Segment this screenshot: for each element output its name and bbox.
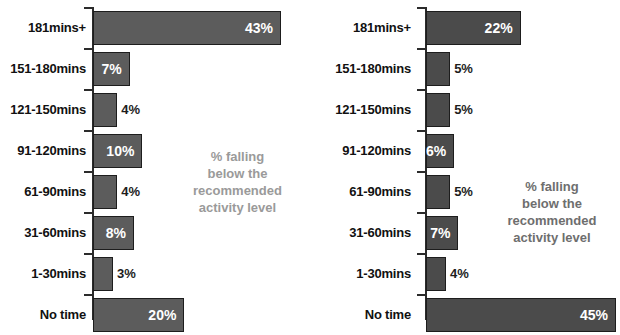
- category-label: 151-180mins: [310, 48, 411, 89]
- bar-row: 181mins+43%: [0, 7, 310, 48]
- bar-1-30mins[interactable]: [93, 257, 113, 291]
- bar-row: No time45%: [310, 294, 620, 335]
- category-label: 61-90mins: [310, 171, 411, 212]
- bar-row: 121-150mins4%: [0, 89, 310, 130]
- bar-value-label: 4%: [121, 93, 140, 127]
- bar-value-label: 6%: [426, 143, 453, 159]
- bar-value-label: 5%: [454, 175, 473, 209]
- bar-value-label: 5%: [454, 52, 473, 86]
- bar-value-label: 7%: [102, 61, 129, 77]
- bar-value-label: 22%: [485, 20, 520, 36]
- bar-91-120mins[interactable]: 10%: [93, 134, 142, 168]
- bar-value-label: 5%: [454, 93, 473, 127]
- bar-value-label: 43%: [245, 20, 280, 36]
- axis-tick: [417, 7, 425, 9]
- bar-1-30mins[interactable]: [426, 257, 446, 291]
- category-label: 91-120mins: [310, 130, 411, 171]
- bar-181mins-[interactable]: 22%: [426, 11, 521, 45]
- bar-value-label: 7%: [430, 225, 457, 241]
- category-label: 31-60mins: [310, 212, 411, 253]
- category-label: 121-150mins: [0, 89, 86, 130]
- bar-61-90mins[interactable]: [93, 175, 117, 209]
- axis-tick: [417, 130, 425, 132]
- right-bar-chart: 181mins+22%151-180mins5%121-150mins5%91-…: [310, 0, 620, 328]
- category-label: 181mins+: [310, 7, 411, 48]
- bar-61-90mins[interactable]: [426, 175, 450, 209]
- bar-value-label: 3%: [117, 257, 136, 291]
- category-label: 61-90mins: [0, 171, 86, 212]
- bar-31-60mins[interactable]: 8%: [93, 216, 134, 250]
- bar-181mins-[interactable]: 43%: [93, 11, 281, 45]
- bar-row: 31-60mins8%: [0, 212, 310, 253]
- axis-tick: [417, 89, 425, 91]
- bar-value-label: 8%: [106, 225, 133, 241]
- bar-31-60mins[interactable]: 7%: [426, 216, 458, 250]
- bar-value-label: 45%: [580, 307, 615, 323]
- axis-tick: [417, 294, 425, 296]
- bar-value-label: 4%: [450, 257, 469, 291]
- bar-row: No time20%: [0, 294, 310, 335]
- bar-row: 151-180mins7%: [0, 48, 310, 89]
- right-plot-area: 181mins+22%151-180mins5%121-150mins5%91-…: [310, 0, 620, 328]
- left-bar-chart: 181mins+43%151-180mins7%121-150mins4%91-…: [0, 0, 310, 328]
- bar-value-label: 10%: [106, 143, 141, 159]
- left-plot-area: 181mins+43%151-180mins7%121-150mins4%91-…: [0, 0, 310, 328]
- right-annotation: % falling below the recommended activity…: [486, 178, 618, 246]
- bar-row: 91-120mins6%: [310, 130, 620, 171]
- axis-tick: [417, 212, 425, 214]
- category-label: 31-60mins: [0, 212, 86, 253]
- category-label: 151-180mins: [0, 48, 86, 89]
- bar-row: 121-150mins5%: [310, 89, 620, 130]
- axis-tick: [417, 171, 425, 173]
- axis-tick: [417, 253, 425, 255]
- bar-151-180mins[interactable]: [426, 52, 450, 86]
- bar-row: 1-30mins4%: [310, 253, 620, 294]
- left-annotation: % falling below the recommended activity…: [170, 148, 305, 216]
- axis-tick: [417, 48, 425, 50]
- bar-no-time[interactable]: 20%: [93, 298, 184, 332]
- category-label: No time: [0, 294, 86, 335]
- bar-row: 1-30mins3%: [0, 253, 310, 294]
- bar-value-label: 20%: [148, 307, 183, 323]
- bar-151-180mins[interactable]: 7%: [93, 52, 130, 86]
- bar-row: 181mins+22%: [310, 7, 620, 48]
- category-label: 91-120mins: [0, 130, 86, 171]
- bar-no-time[interactable]: 45%: [426, 298, 616, 332]
- category-label: No time: [310, 294, 411, 335]
- bar-value-label: 4%: [121, 175, 140, 209]
- category-label: 181mins+: [0, 7, 86, 48]
- category-label: 1-30mins: [310, 253, 411, 294]
- bar-121-150mins[interactable]: [426, 93, 450, 127]
- bar-row: 151-180mins5%: [310, 48, 620, 89]
- bar-91-120mins[interactable]: 6%: [426, 134, 454, 168]
- category-label: 121-150mins: [310, 89, 411, 130]
- bar-121-150mins[interactable]: [93, 93, 117, 127]
- category-label: 1-30mins: [0, 253, 86, 294]
